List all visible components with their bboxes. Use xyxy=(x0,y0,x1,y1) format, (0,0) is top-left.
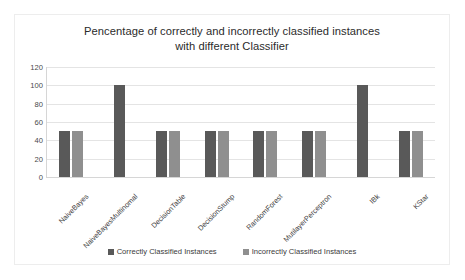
y-axis-tick-label: 20 xyxy=(17,154,43,163)
x-axis: NaiveBayesNaiveBayesMultinomalDecisionTa… xyxy=(60,192,448,254)
chart-title-line-2: with different Classifier xyxy=(15,39,449,54)
bar[interactable] xyxy=(114,85,125,177)
bar[interactable] xyxy=(59,131,70,177)
chart-legend: Correctly Classified InstancesIncorrectl… xyxy=(15,247,449,256)
plot-area: 020406080100120 xyxy=(46,67,435,178)
chart-title: Pencentage of correctly and incorrectly … xyxy=(15,24,449,54)
y-axis-tick-label: 60 xyxy=(17,118,43,127)
bar-group xyxy=(387,67,436,177)
y-axis: 020406080100120 xyxy=(17,67,43,177)
y-axis-tick-label: 80 xyxy=(17,99,43,108)
legend-swatch-icon xyxy=(243,249,249,255)
x-axis-tick-label: KStar xyxy=(424,179,443,198)
bar[interactable] xyxy=(266,131,277,177)
bar[interactable] xyxy=(399,131,410,177)
bar-group xyxy=(47,67,96,177)
bar-group xyxy=(193,67,242,177)
bar[interactable] xyxy=(315,131,326,177)
bar-group xyxy=(96,67,145,177)
bars-layer xyxy=(47,67,435,177)
y-axis-tick-label: 120 xyxy=(17,63,43,72)
bar[interactable] xyxy=(412,131,423,177)
chart-title-line-1: Pencentage of correctly and incorrectly … xyxy=(15,24,449,39)
legend-label: Incorrectly Classified Instances xyxy=(252,247,357,256)
legend-item[interactable]: Correctly Classified Instances xyxy=(108,247,217,256)
y-axis-tick-label: 100 xyxy=(17,81,43,90)
legend-item[interactable]: Incorrectly Classified Instances xyxy=(243,247,357,256)
legend-swatch-icon xyxy=(108,249,114,255)
y-axis-tick-label: 40 xyxy=(17,136,43,145)
bar[interactable] xyxy=(72,131,83,177)
bar[interactable] xyxy=(218,131,229,177)
y-axis-tick-label: 0 xyxy=(17,173,43,182)
x-axis-tick-label: IBk xyxy=(375,185,389,199)
chart-container: Pencentage of correctly and incorrectly … xyxy=(14,14,450,265)
legend-label: Correctly Classified Instances xyxy=(117,247,217,256)
